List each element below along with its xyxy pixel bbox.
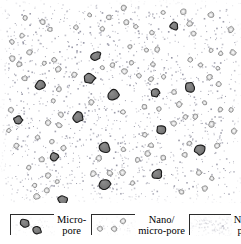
legend-label-micro-pore-line1: Micro- — [57, 214, 86, 225]
legend-label-nano-micro-pore-line1: Nano/ — [149, 214, 175, 225]
micro-pore-swatch-canvas — [11, 215, 55, 236]
nano-pore-swatch — [189, 214, 231, 235]
porous-medium-figure: Micro- pore Nano/ micro-pore Nano- pore — [0, 0, 241, 244]
porous-medium-panel — [0, 0, 241, 203]
legend: Micro- pore Nano/ micro-pore Nano- pore — [0, 205, 241, 244]
porous-structure-canvas — [0, 0, 241, 203]
nano-micro-pore-swatch — [91, 214, 135, 235]
legend-item-nano-micro-pore: Nano/ micro-pore — [86, 214, 185, 236]
legend-label-micro-pore: Micro- pore — [54, 214, 86, 236]
legend-item-nano-pore: Nano- pore — [185, 214, 241, 236]
nano-micro-pore-swatch-canvas — [92, 215, 136, 236]
legend-label-nano-pore-line2: pore — [234, 225, 241, 236]
legend-item-micro-pore: Micro- pore — [0, 214, 86, 236]
legend-label-nano-micro-pore: Nano/ micro-pore — [135, 214, 185, 236]
micro-pore-swatch — [10, 214, 54, 235]
legend-label-nano-micro-pore-line2: micro-pore — [138, 225, 185, 236]
legend-label-micro-pore-line2: pore — [57, 225, 86, 236]
legend-label-nano-pore: Nano- pore — [231, 214, 241, 236]
legend-label-nano-pore-line1: Nano- — [234, 214, 241, 225]
nano-pore-swatch-canvas — [190, 215, 232, 236]
